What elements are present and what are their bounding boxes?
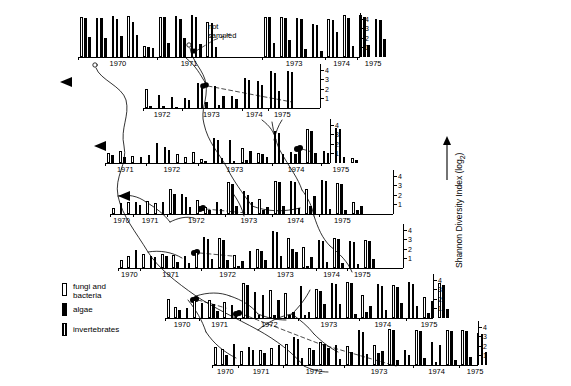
bar-algae [132, 22, 135, 57]
bar-algae [261, 154, 264, 163]
y-axis-tick [433, 280, 437, 281]
bar-invertebrates [168, 150, 171, 163]
bar-fungi-bacteria [431, 342, 434, 365]
year-label-1975: 1975 [323, 166, 360, 174]
bar-fungi-bacteria [264, 17, 267, 57]
y-axis-tick-label: 3 [365, 25, 369, 32]
year-label-1974: 1974 [318, 271, 345, 279]
bar-fungi-bacteria [256, 249, 259, 268]
y-axis-tick [360, 47, 364, 48]
bar-fungi-bacteria [186, 308, 189, 318]
bar-invertebrates [323, 304, 326, 318]
year-tick [238, 365, 239, 368]
bar-fungi-bacteria [333, 238, 336, 268]
panel-baseline [110, 214, 393, 215]
bar-fungi-bacteria [361, 295, 364, 318]
bar-invertebrates [123, 157, 126, 163]
bar-fungi-bacteria [172, 255, 175, 268]
y-axis-tick [478, 327, 482, 328]
bar-algae [273, 315, 276, 318]
bar-fungi-bacteria [290, 152, 293, 163]
year-tick [319, 214, 320, 217]
year-tick [198, 163, 199, 166]
bar-algae [217, 140, 220, 163]
year-label-1970: 1970 [80, 60, 156, 68]
y-axis-tick [330, 153, 334, 154]
y-axis-tick [330, 144, 334, 145]
bar-invertebrates [304, 49, 307, 57]
bar-algae [147, 47, 150, 57]
year-tick [347, 268, 348, 271]
y-axis-tick [403, 258, 407, 259]
bar-fungi-bacteria [203, 237, 206, 268]
year-label-1973: 1973 [184, 111, 240, 119]
bar-invertebrates [176, 262, 179, 268]
bar-algae [319, 291, 322, 318]
bar-algae [294, 182, 297, 214]
year-label-1974: 1974 [361, 321, 404, 329]
y-axis-tick [393, 176, 397, 177]
bar-fungi-bacteria [248, 347, 251, 365]
bar-fungi-bacteria [270, 348, 273, 365]
legend-label-fungi-bacteria-line2: bacteria [73, 291, 106, 300]
bar-invertebrates [341, 263, 344, 268]
bar-algae [208, 210, 211, 214]
bar-algae [427, 313, 430, 318]
y-axis-tick-label: 1 [365, 44, 369, 51]
year-tick [165, 318, 166, 321]
bar-invertebrates [88, 37, 91, 57]
bar-algae [442, 285, 445, 318]
year-label-1973: 1973 [300, 321, 358, 329]
year-label-1972: 1972 [242, 321, 296, 329]
year-tick [157, 57, 158, 60]
bar-fungi-bacteria [315, 289, 318, 318]
bar-invertebrates [152, 48, 155, 57]
y-axis-tick-label: 2 [438, 295, 442, 302]
bar-algae [337, 239, 340, 268]
y-axis-tick-label: 4 [365, 15, 369, 22]
bar-algae [316, 25, 319, 57]
bar-fungi-bacteria [270, 71, 273, 108]
bar-algae [335, 284, 338, 318]
bar-algae [268, 17, 271, 57]
year-label-1972: 1972 [169, 217, 223, 225]
y-axis-tick-label: 2 [325, 85, 329, 92]
y-axis-tick-label: 1 [408, 255, 412, 262]
bar-fungi-bacteria [223, 302, 226, 318]
bar-algae [291, 249, 294, 268]
bar-fungi-bacteria [195, 252, 198, 268]
bar-fungi-bacteria [146, 201, 149, 214]
year-label-1972: 1972 [285, 368, 343, 376]
bar-fungi-bacteria [119, 151, 122, 163]
bar-invertebrates [308, 312, 311, 318]
bar-invertebrates [288, 40, 291, 57]
bar-fungi-bacteria [461, 330, 464, 365]
bar-algae [309, 206, 312, 214]
bar-invertebrates [372, 259, 375, 268]
bar-invertebrates [312, 350, 315, 365]
y-axis-tick [433, 308, 437, 309]
bar-fungi-bacteria [408, 282, 411, 318]
panel-baseline [78, 57, 360, 58]
bar-invertebrates [205, 102, 208, 108]
bar-fungi-bacteria [392, 285, 395, 318]
bar-algae [365, 312, 368, 318]
y-axis-tick-label: 2 [398, 191, 402, 198]
bar-fungi-bacteria [321, 180, 324, 214]
bar-fungi-bacteria [305, 189, 308, 214]
bar-fungi-bacteria [318, 240, 321, 268]
bar-invertebrates [262, 295, 265, 318]
bar-invertebrates [249, 151, 252, 163]
y-axis-tick-label: 3 [398, 182, 402, 189]
year-tick [272, 163, 273, 166]
bar-invertebrates [280, 256, 283, 268]
bar-fungi-bacteria [231, 96, 234, 108]
bar-algae [195, 17, 198, 57]
year-tick [357, 57, 358, 60]
legend-label-invertebrates: invertebrates [73, 325, 119, 334]
bar-invertebrates [104, 38, 107, 57]
bar-fungi-bacteria [254, 292, 257, 318]
year-tick [110, 214, 111, 217]
bar-fungi-bacteria [269, 290, 272, 318]
bar-fungi-bacteria [143, 46, 146, 57]
